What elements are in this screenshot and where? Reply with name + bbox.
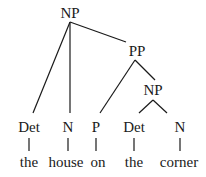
node-np-root: NP [60, 6, 79, 21]
edge-np2-det [139, 100, 153, 113]
edge-np-det [33, 22, 70, 113]
word-the-1: the [20, 155, 38, 170]
edge-np-pp [70, 22, 126, 42]
syntax-tree: NP PP NP Det N P Det N the house on the … [0, 0, 206, 177]
node-pp: PP [129, 44, 146, 59]
node-p: P [92, 120, 100, 135]
node-n-2: N [175, 120, 186, 135]
node-det-1: Det [18, 120, 40, 135]
node-np-inner: NP [143, 83, 162, 98]
word-house: house [49, 155, 84, 170]
word-corner: corner [160, 155, 198, 170]
word-the-2: the [125, 155, 143, 170]
node-n-1: N [63, 120, 74, 135]
edge-pp-np [135, 60, 155, 80]
edge-np2-n [153, 100, 167, 113]
tree-branches [0, 0, 206, 177]
word-on: on [91, 155, 106, 170]
node-det-2: Det [123, 120, 145, 135]
edge-pp-p [100, 60, 135, 113]
